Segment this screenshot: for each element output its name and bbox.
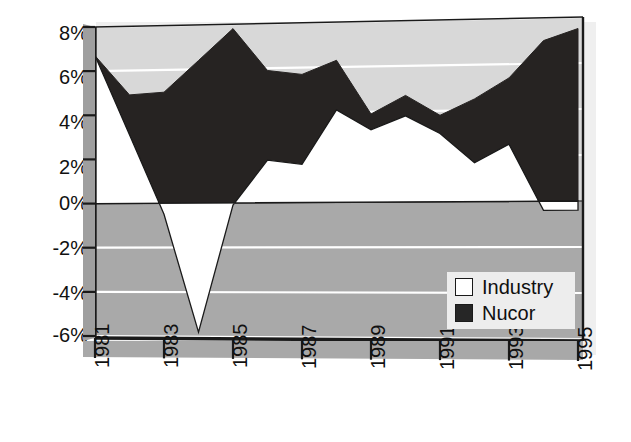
legend-swatch-industry: [455, 278, 473, 296]
x-tick-label: 1991: [437, 326, 457, 371]
x-axis-tick-labels: 1981 1983 1985 1987 1989 1991 1993 1995: [0, 0, 631, 442]
x-tick-label: 1981: [92, 324, 112, 369]
x-tick-label: 1989: [368, 325, 388, 370]
x-tick-label: 1985: [230, 324, 250, 369]
legend-item-industry[interactable]: Industry: [455, 274, 553, 300]
x-tick-label: 1995: [575, 327, 595, 372]
legend-label-nucor: Nucor: [482, 303, 535, 323]
legend-swatch-nucor: [455, 304, 473, 322]
legend-item-nucor[interactable]: Nucor: [455, 300, 535, 326]
chart-legend: Industry Nucor: [447, 272, 575, 329]
x-tick-label: 1983: [161, 324, 181, 369]
chart-figure: 8% 6% 4% 2% 0% -2% -4% -6%: [0, 0, 631, 442]
x-tick-label: 1993: [506, 326, 526, 371]
legend-label-industry: Industry: [482, 277, 553, 297]
x-tick-label: 1987: [299, 325, 319, 370]
